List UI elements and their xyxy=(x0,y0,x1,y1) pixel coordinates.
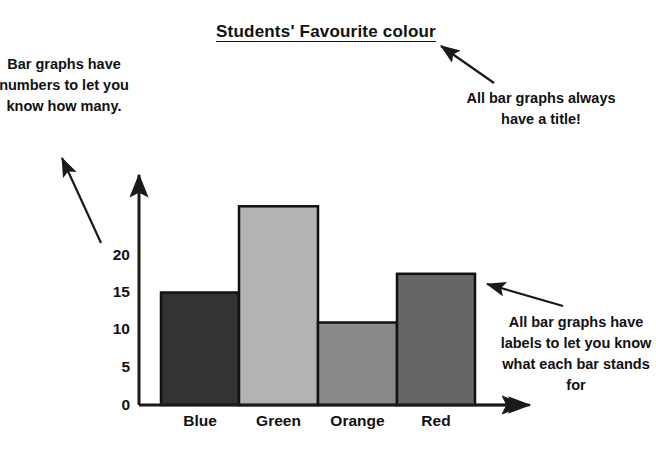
y-tick-20: 20 xyxy=(90,246,130,264)
y-tick-10: 10 xyxy=(90,320,130,338)
bar-orange xyxy=(318,323,397,406)
annotation-numbers-arrow xyxy=(62,158,101,243)
x-label-green: Green xyxy=(239,412,318,430)
x-label-blue: Blue xyxy=(161,412,239,430)
bar-red xyxy=(397,274,475,405)
chart-plot-area xyxy=(0,0,656,452)
annotation-labels-arrow xyxy=(487,284,563,306)
bar-blue xyxy=(161,293,239,406)
x-label-red: Red xyxy=(397,412,475,430)
bar-green xyxy=(239,206,318,405)
bar-graph-worksheet: Students' Favourite colour Bar graphs ha… xyxy=(0,0,656,452)
y-tick-15: 15 xyxy=(90,283,130,301)
x-label-orange: Orange xyxy=(318,412,397,430)
y-tick-0: 0 xyxy=(90,396,130,414)
bar-series xyxy=(161,206,475,405)
y-tick-5: 5 xyxy=(90,358,130,376)
annotation-title-arrow xyxy=(441,46,494,83)
